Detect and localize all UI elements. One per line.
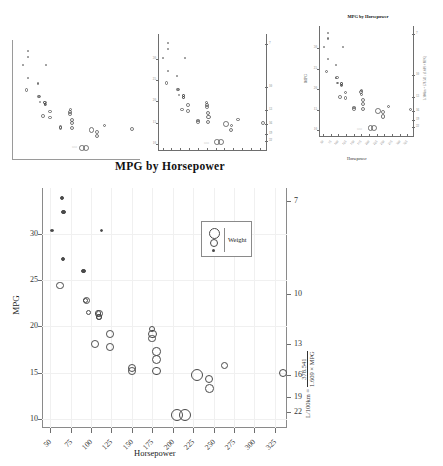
main-gridline-h bbox=[42, 280, 287, 281]
main-x-tick bbox=[254, 428, 255, 433]
thumb-y2-tick bbox=[412, 34, 415, 35]
main-x-tick bbox=[214, 428, 215, 433]
thumb3-center-artifact: oo bbox=[357, 126, 362, 131]
data-point bbox=[106, 330, 114, 338]
thumb-y-tick bbox=[156, 80, 159, 81]
thumb-y2-tick bbox=[265, 124, 268, 125]
data-point bbox=[25, 88, 28, 91]
data-point bbox=[91, 340, 99, 348]
thumb-x-tick bbox=[377, 134, 378, 137]
data-point bbox=[50, 229, 53, 232]
data-point bbox=[95, 310, 101, 316]
thumb-y2-ticklabel: 16 bbox=[416, 108, 427, 112]
thumb-y-tick bbox=[317, 69, 320, 70]
thumb-x-tick bbox=[354, 134, 355, 137]
data-point bbox=[327, 37, 329, 39]
thumb-y2-tick bbox=[412, 111, 415, 112]
main-gridline-v bbox=[111, 188, 112, 428]
data-point bbox=[344, 91, 348, 95]
thumb-y2-tick bbox=[412, 97, 415, 98]
data-point bbox=[205, 384, 214, 393]
data-point bbox=[279, 369, 287, 377]
thumb1-panel-frame bbox=[12, 40, 140, 160]
main-gridline-h bbox=[42, 373, 287, 374]
data-point bbox=[152, 367, 161, 376]
thumb-x-tick bbox=[392, 134, 393, 137]
thumb-y-tick bbox=[156, 123, 159, 124]
thumb3-y-axis bbox=[319, 26, 320, 136]
data-point bbox=[206, 115, 210, 119]
main-y-ticklabel: 30 bbox=[20, 229, 38, 238]
data-point bbox=[335, 76, 338, 79]
thumb-y2-tick bbox=[265, 87, 268, 88]
data-point bbox=[375, 108, 381, 114]
thumb-x-tick bbox=[260, 148, 261, 151]
thumbnail-plot-3: MPG by Horsepower MPG Horsepower L/100km… bbox=[295, 14, 440, 164]
thumb-x-tick bbox=[163, 148, 164, 151]
thumb-x-tick bbox=[198, 148, 199, 151]
thumb-y-ticklabel: 15 bbox=[306, 107, 317, 111]
thumb-y-tick bbox=[317, 130, 320, 131]
data-point bbox=[165, 81, 168, 84]
data-point bbox=[327, 58, 329, 60]
data-point bbox=[167, 42, 169, 44]
data-point bbox=[41, 114, 45, 118]
thumb-y2-ticklabel: 7 bbox=[416, 31, 427, 35]
main-gridline-v bbox=[173, 188, 174, 428]
thumb-y-ticklabel: 30 bbox=[306, 45, 317, 49]
main-x-tick bbox=[173, 428, 174, 433]
thumb-y2-tick bbox=[412, 75, 415, 76]
data-point bbox=[83, 145, 89, 151]
main-y2-tick bbox=[287, 201, 291, 202]
legend-bubble-small bbox=[212, 249, 215, 252]
data-point bbox=[236, 118, 239, 121]
size-legend[interactable]: Weight bbox=[201, 221, 252, 257]
data-point bbox=[186, 103, 190, 107]
thumb-x-tick bbox=[180, 148, 181, 151]
main-gridline-v bbox=[50, 188, 51, 428]
thumb-y-tick bbox=[317, 48, 320, 49]
thumb-y2-ticklabel: 7 bbox=[269, 41, 280, 45]
figure-supertitle: MPG by Horsepower bbox=[0, 160, 340, 172]
main-gridline-h bbox=[42, 326, 287, 327]
main-y2-ticklabel: 22 bbox=[294, 407, 310, 416]
thumb-x-tick bbox=[251, 148, 252, 151]
data-point bbox=[167, 48, 169, 50]
data-point bbox=[177, 88, 180, 91]
thumb-x-tick bbox=[384, 134, 385, 137]
thumb-y2-ticklabel: 13 bbox=[269, 107, 280, 111]
main-x-tick bbox=[275, 428, 276, 433]
thumb-y2-ticklabel: 13 bbox=[416, 94, 427, 98]
data-point bbox=[37, 82, 39, 84]
main-y2-tick bbox=[287, 375, 291, 376]
main-y-ticklabel: 10 bbox=[20, 414, 38, 423]
main-x-tick bbox=[71, 428, 72, 433]
main-x-tick bbox=[132, 428, 133, 433]
data-point bbox=[325, 70, 328, 73]
data-point bbox=[361, 98, 365, 102]
thumb-y2-tick bbox=[412, 127, 415, 128]
data-point bbox=[371, 125, 377, 131]
legend-title: Weight bbox=[228, 236, 247, 243]
main-x-tick bbox=[152, 428, 153, 433]
data-point bbox=[360, 89, 363, 92]
thumbnail-plot-2: oo 101520253071013161922 bbox=[140, 34, 275, 164]
main-y-ticklabel: 15 bbox=[20, 368, 38, 377]
thumb-y-ticklabel: 20 bbox=[306, 86, 317, 90]
thumb-y2-ticklabel: 19 bbox=[416, 117, 427, 121]
thumb-x-tick bbox=[242, 148, 243, 151]
main-y2-tick bbox=[287, 294, 291, 295]
thumb-y2-tick bbox=[265, 44, 268, 45]
data-point bbox=[184, 57, 186, 59]
main-gridline-h bbox=[42, 419, 287, 420]
main-y2-tick bbox=[287, 412, 291, 413]
main-y-ticklabel: 20 bbox=[20, 321, 38, 330]
main-chart: MPG Horsepower L/100km = 378.541 1.609 ×… bbox=[0, 180, 443, 466]
thumb-x-tick bbox=[233, 148, 234, 151]
thumb-y2-tick bbox=[412, 120, 415, 121]
data-point bbox=[323, 46, 325, 48]
data-point bbox=[162, 57, 164, 59]
data-point bbox=[48, 116, 52, 120]
data-point bbox=[206, 120, 210, 124]
main-y2-ticklabel: 19 bbox=[294, 392, 310, 401]
